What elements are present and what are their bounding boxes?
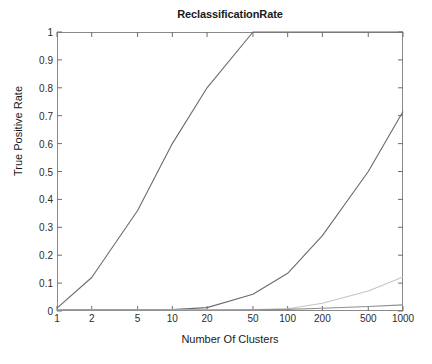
- figure-canvas: ReclassificationRate 00.10.20.30.40.50.6…: [0, 0, 432, 364]
- y-tick-label: 0.5: [39, 166, 53, 177]
- x-tick-label: 1: [54, 313, 60, 324]
- y-axis-label: True Positive Rate: [12, 51, 24, 211]
- x-tick-label: 10: [167, 313, 178, 324]
- line-series-3: [57, 277, 403, 310]
- y-tick-label: 0.1: [39, 278, 53, 289]
- x-tick-label: 500: [360, 313, 377, 324]
- x-tick-label: 200: [314, 313, 331, 324]
- x-tick-label: 50: [247, 313, 258, 324]
- x-axis-tick-labels: 1251020501002005001000: [0, 313, 432, 333]
- line-series-2: [57, 112, 403, 310]
- y-axis-tick-labels: 00.10.20.30.40.50.60.70.80.91: [0, 32, 53, 311]
- data-series-group: [57, 32, 403, 310]
- x-tick-label: 20: [201, 313, 212, 324]
- y-tick-label: 0.9: [39, 54, 53, 65]
- y-tick-label: 1: [47, 27, 53, 38]
- y-tick-label: 0.2: [39, 250, 53, 261]
- y-tick-label: 0.3: [39, 222, 53, 233]
- y-tick-label: 0.8: [39, 82, 53, 93]
- tick-marks: [57, 32, 403, 311]
- x-tick-label: 100: [279, 313, 296, 324]
- chart-title: ReclassificationRate: [57, 8, 403, 20]
- plot-lines: [57, 32, 403, 311]
- line-series-1: [57, 32, 403, 308]
- y-tick-label: 0.4: [39, 194, 53, 205]
- x-axis-label: Number Of Clusters: [57, 333, 403, 345]
- x-tick-label: 5: [135, 313, 141, 324]
- x-tick-label: 2: [89, 313, 95, 324]
- y-tick-label: 0.7: [39, 110, 53, 121]
- x-tick-label: 1000: [392, 313, 414, 324]
- y-tick-label: 0.6: [39, 138, 53, 149]
